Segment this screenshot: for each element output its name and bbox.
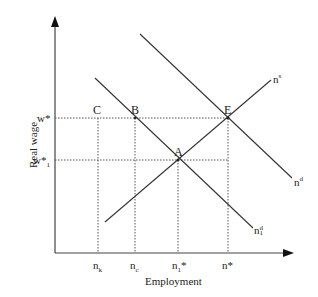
x-axis-arrow-icon: [283, 249, 294, 257]
x-tick-n-star: n*: [222, 260, 233, 271]
point-c-label: C: [93, 104, 101, 116]
point-e-label: E: [224, 104, 231, 116]
diagram-canvas: [0, 0, 318, 297]
x-tick-nk: nk: [93, 260, 102, 274]
point-b-label: B: [131, 104, 139, 116]
curve-label-ns: ns: [273, 73, 281, 85]
y-axis-arrow-icon: [51, 16, 59, 27]
curve-label-nd: nd: [294, 176, 303, 188]
curve-label-n1d: nd1: [254, 225, 263, 237]
labor-demand-curve: [140, 34, 292, 178]
point-a-label: A: [174, 146, 183, 158]
x-tick-nc: nc: [130, 260, 139, 274]
y-axis-title: Real wage: [27, 122, 39, 168]
point-b-marker: [134, 117, 136, 119]
labor-supply-curve: [105, 80, 271, 222]
x-tick-n1-star: n1*: [172, 260, 187, 274]
x-axis-title: Employment: [145, 276, 202, 287]
